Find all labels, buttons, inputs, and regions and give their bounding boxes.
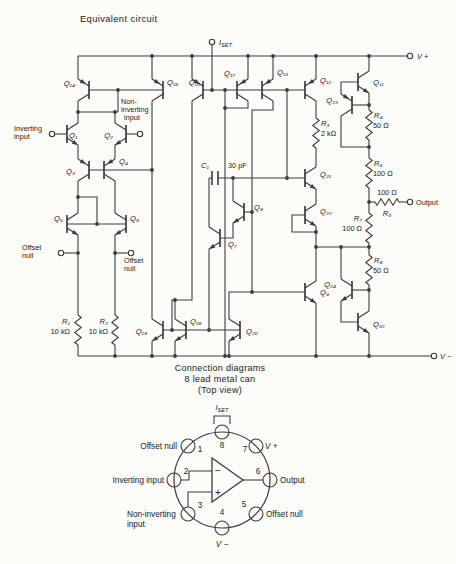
label-passives.r3.name: R₃ [321,119,330,128]
junction-dot [367,200,371,204]
pin-8-number: 8 [220,441,225,450]
vminus-label: V − [440,352,452,361]
resistor-zigzag [366,213,372,243]
label-io.offset_right.1: null [124,264,136,273]
label-q12: Q₁₂ [320,76,331,85]
junction-dot [314,354,318,358]
junction-dot [367,54,371,58]
wire [341,301,358,322]
label-passives.r6.value: 100 Ω [377,188,397,197]
pin-6-label: Output [280,476,305,485]
label-passives.r5.name: R₅ [374,159,383,168]
emitter-arrow [343,94,350,101]
junction-dot [190,54,194,58]
emitter-arrow [80,79,87,86]
output-label: Output [416,198,438,207]
wire [252,101,273,292]
label-q3: Q₃ [66,167,75,176]
circuit-schematic-svg: Q₁₄Q₁₅Q₁₆Q₁₇Q₁₃Q₁₂Q₁₁Q₂₃Q₂₁Q₂₂Q₈Q₇Q₁Q₂Q₃… [0,0,456,564]
label-q17: Q₁₇ [224,69,235,78]
transistor-q6-collector [115,213,126,220]
vplus-label: V + [417,52,429,61]
junction-dot [246,54,250,58]
pin-7-label: V + [265,442,278,451]
wire [78,197,97,224]
transistor-q21-collector [305,167,316,174]
pin-4-number: 4 [220,508,225,517]
junction-dot [314,245,318,249]
label-q22: Q₂₂ [320,207,332,216]
label-passives.r1.value: 10 kΩ [51,327,71,336]
label-connection.heading.0: Connection diagrams [175,363,266,373]
label-q11: Q₁₁ [373,78,384,87]
junction-dot [285,88,289,92]
resistor-zigzag [366,158,372,188]
transistor-q8-collector [233,201,244,208]
junction-dot [367,145,371,149]
emitter-arrow [239,79,246,86]
opamp-plus-sign: + [215,487,221,498]
junction-dot [223,354,227,358]
junction-dot [150,168,154,172]
label-io.noninverting.2: input [124,113,140,122]
label-passives.r5.value: 100 Ω [373,169,393,178]
noninverting-input-terminal [137,131,142,136]
emitter-arrow [307,79,314,86]
pin-2-number: 2 [184,467,189,476]
pin-4-label: V − [216,540,229,549]
wire [220,223,233,238]
junction-dot [367,288,371,292]
label-passives.r8.name: R₈ [374,256,383,265]
resistor-zigzag [366,255,372,285]
transistor-q10-collector [358,311,369,318]
transistor-q12-emitter [305,94,316,101]
junction-dot [231,176,235,180]
wire [341,82,358,94]
label-q13: Q₁₃ [277,68,288,77]
iset-terminal [209,39,214,44]
pin-5-label: Offset null [266,510,303,519]
transistor-q22-collector [305,204,316,211]
junction-dot [207,328,211,332]
junction-dot [113,251,117,255]
transistor-q13-emitter [262,94,273,101]
transistor-q11-collector [358,71,369,78]
transistor-q24-collector [341,279,352,286]
transistor-q7-collector [209,227,220,234]
label-q1: Q₁ [69,131,78,140]
resistor-zigzag [313,118,319,148]
label-q7: Q₇ [228,240,237,249]
junction-dot [210,88,214,92]
label-passives.r2.name: R₂ [100,317,108,326]
label-q8: Q₈ [254,203,263,212]
junction-dot [76,110,80,114]
resistor-zigzag [366,110,372,140]
datasheet-page: Q₁₄Q₁₅Q₁₆Q₁₇Q₁₃Q₁₂Q₁₁Q₂₃Q₂₁Q₂₂Q₈Q₇Q₁Q₂Q₃… [0,0,456,564]
label-passives.r4.name: R₄ [374,111,383,120]
junction-dot [173,298,177,302]
label-q20: Q₂₀ [246,327,258,336]
transistor-q14-emitter [78,94,89,101]
label-passives.r7.value: 100 Ω [342,224,362,233]
pin-6-number: 6 [256,467,261,476]
label-passives.c1.name: C₁ [201,161,209,170]
label-passives.c1.value: 30 pF [228,161,247,170]
wire [341,116,369,147]
junction-dot [223,106,227,110]
junction-dot [173,354,177,358]
label-q10: Q₁₀ [373,320,385,329]
label-passives.r3.value: 2 kΩ [321,129,337,138]
pin-3-label: Non-inverting [127,510,176,519]
junction-dot [150,354,154,358]
label-connection.heading.2: (Top view) [198,385,242,395]
inverting-input-terminal [49,131,54,136]
transistor-q3-emitter [78,174,89,181]
emitter-arrow [154,79,161,86]
label-passives.r6.name: R₆ [383,209,392,218]
vminus-terminal [431,353,436,358]
junction-dot [170,328,174,332]
transistor-q9-collector [305,281,316,288]
label-passives.r4.value: 50 Ω [373,121,389,130]
vplus-terminal [407,53,412,58]
pin-3-number: 3 [198,501,203,510]
